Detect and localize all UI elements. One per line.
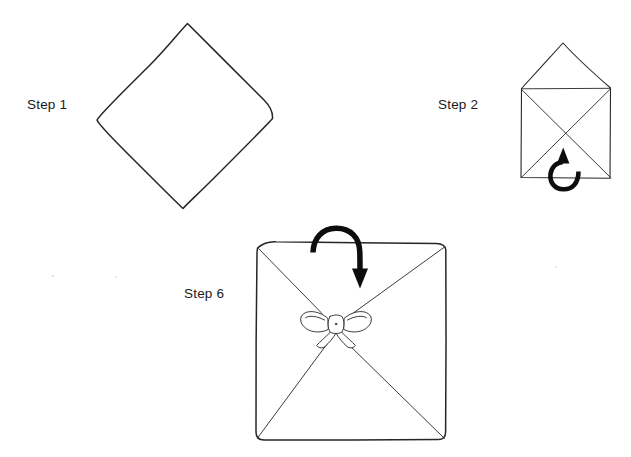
step-6-fold-over-arrowhead xyxy=(352,269,368,289)
bow-tail-left xyxy=(317,331,336,348)
tied-square-fold-upper-right xyxy=(352,247,445,314)
tied-square-fold-upper-left xyxy=(259,249,323,314)
step-1-figure xyxy=(97,24,273,209)
step-2-fold-up-arrowhead xyxy=(557,148,569,164)
tied-square-fold-lower-left xyxy=(258,340,331,438)
bow-loop-right xyxy=(344,312,371,332)
step-2-figure xyxy=(521,43,611,189)
ribbon-bow xyxy=(301,312,372,348)
step-6-fold-over-arrow-shaft xyxy=(313,228,360,272)
diamond-outline xyxy=(97,24,273,209)
scan-speck-3 xyxy=(555,266,557,268)
scan-speck-2 xyxy=(115,276,117,278)
folding-diagram xyxy=(0,0,631,457)
bow-tail-right xyxy=(337,331,356,348)
envelope-top-edge xyxy=(522,88,611,89)
tied-square-fold-lower-right xyxy=(344,340,445,439)
step-2-fold-up-arrow-shaft xyxy=(550,162,578,189)
scan-speck-1 xyxy=(52,275,54,277)
bow-knot xyxy=(328,315,344,334)
step-6-label: Step 6 xyxy=(184,286,224,301)
step-1-label: Step 1 xyxy=(27,97,67,112)
step-2-label: Step 2 xyxy=(438,97,478,112)
envelope-flap xyxy=(522,43,611,89)
step-6-figure xyxy=(256,228,446,440)
diagram-page: Step 1 Step 2 Step 6 xyxy=(0,0,631,457)
bow-loop-left xyxy=(301,312,328,332)
